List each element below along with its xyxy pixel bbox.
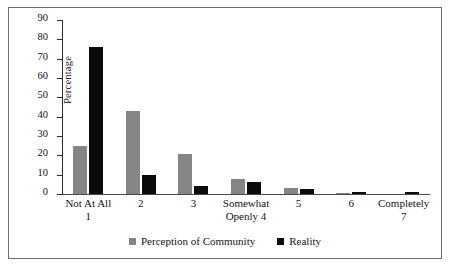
y-tick-label: 0 xyxy=(18,186,48,197)
x-tick-label: Completely7 xyxy=(354,197,454,223)
bar xyxy=(336,193,350,194)
bar xyxy=(89,47,103,194)
bar xyxy=(231,179,245,194)
bar xyxy=(73,146,87,194)
y-tick-label: 40 xyxy=(18,109,48,120)
bar xyxy=(194,186,208,194)
y-tick-label: 30 xyxy=(18,128,48,139)
bar xyxy=(352,192,366,194)
y-tick-label: 90 xyxy=(18,12,48,23)
chart-legend: Perception of CommunityReality xyxy=(8,235,442,247)
bar xyxy=(405,192,419,194)
legend-item: Reality xyxy=(277,235,321,247)
bar xyxy=(126,111,140,194)
plot-area: Percentage 0102030405060708090 Not At Al… xyxy=(8,7,442,259)
legend-label: Perception of Community xyxy=(141,235,255,247)
x-tick-label-line: 1 xyxy=(38,210,138,223)
bar xyxy=(284,188,298,194)
legend-item: Perception of Community xyxy=(129,235,255,247)
bar xyxy=(247,182,261,194)
bars-layer xyxy=(62,20,430,195)
x-tick-label-line: Openly 4 xyxy=(196,210,296,223)
bar xyxy=(178,154,192,194)
chart-figure: Percentage 0102030405060708090 Not At Al… xyxy=(0,0,458,274)
legend-swatch-icon xyxy=(277,238,284,245)
x-tick-label-line: 7 xyxy=(354,210,454,223)
x-axis-tick-labels: Not At All123SomewhatOpenly 456Completel… xyxy=(62,197,430,233)
bar xyxy=(300,189,314,194)
y-tick-label: 50 xyxy=(18,89,48,100)
y-tick-label: 60 xyxy=(18,70,48,81)
y-tick-label: 10 xyxy=(18,167,48,178)
y-tick-label: 70 xyxy=(18,51,48,62)
legend-swatch-icon xyxy=(129,238,136,245)
bar xyxy=(142,175,156,194)
x-tick-label-line: Completely xyxy=(354,197,454,210)
y-tick-label: 20 xyxy=(18,147,48,158)
y-tick-label: 80 xyxy=(18,31,48,42)
axes: 0102030405060708090 xyxy=(62,20,430,195)
legend-label: Reality xyxy=(289,235,321,247)
